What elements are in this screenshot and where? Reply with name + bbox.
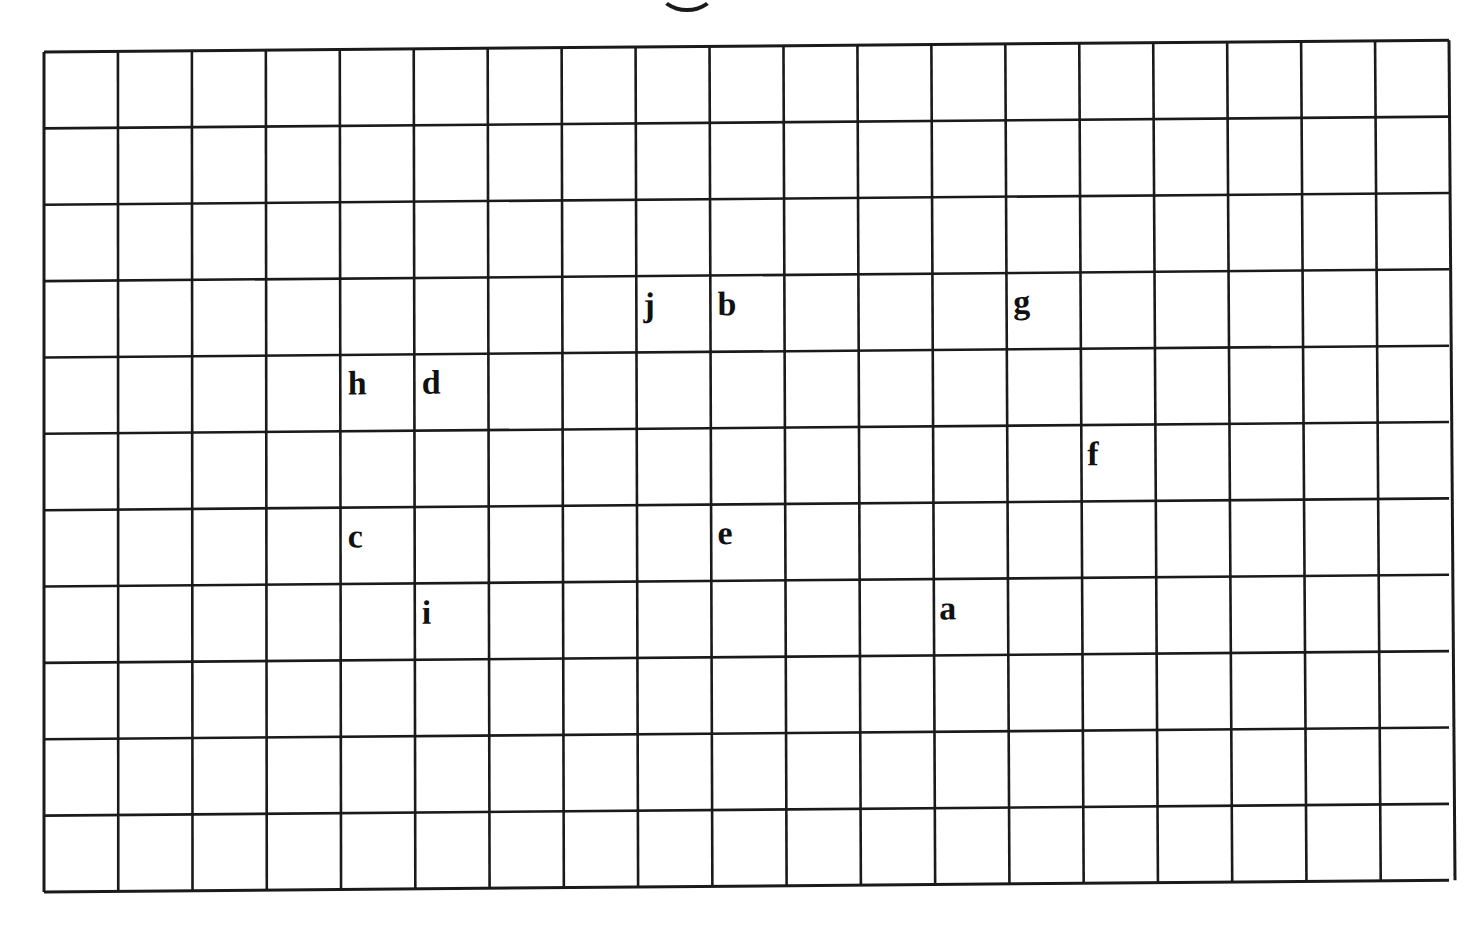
label-d: d bbox=[422, 366, 441, 400]
grid-vertical-line bbox=[1079, 43, 1083, 883]
label-f: f bbox=[1087, 437, 1098, 471]
label-b: b bbox=[718, 287, 737, 321]
grid-horizontal-line bbox=[44, 346, 1449, 358]
grid-vertical-line bbox=[783, 46, 786, 886]
label-c: c bbox=[348, 520, 363, 554]
label-j: j bbox=[644, 288, 655, 322]
grid-vertical-line bbox=[414, 49, 416, 889]
label-i: i bbox=[422, 595, 431, 629]
grid-horizontal-line bbox=[44, 40, 1449, 52]
grid-horizontal-line bbox=[44, 651, 1449, 663]
grid-horizontal-line bbox=[44, 575, 1449, 587]
grid-horizontal-line bbox=[44, 498, 1449, 510]
grid-vertical-line bbox=[1227, 42, 1232, 882]
grid-lines bbox=[44, 40, 1449, 892]
grid-vertical-line bbox=[1005, 44, 1009, 884]
grid-vertical-line bbox=[636, 47, 639, 887]
grid-vertical-line bbox=[1301, 41, 1306, 881]
grid-vertical-line bbox=[488, 48, 490, 888]
grid-vertical-line bbox=[1153, 43, 1158, 883]
grid-horizontal-line bbox=[44, 117, 1449, 129]
diagram-stage: j b g h d f c e i a bbox=[0, 0, 1473, 933]
letter-grid: j b g h d f c e i a bbox=[44, 40, 1449, 892]
partial-glyph-arc bbox=[658, 0, 716, 12]
grid-vertical-line bbox=[710, 46, 713, 886]
grid-horizontal-line bbox=[44, 269, 1449, 281]
grid-vertical-line bbox=[857, 45, 860, 885]
grid-horizontal-line bbox=[44, 804, 1449, 816]
label-h: h bbox=[348, 367, 367, 401]
label-g: g bbox=[1013, 285, 1030, 319]
grid-horizontal-line bbox=[44, 422, 1449, 434]
grid-vertical-line bbox=[1375, 41, 1381, 881]
grid-vertical-line bbox=[266, 50, 267, 890]
grid-horizontal-line bbox=[44, 728, 1449, 740]
label-a: a bbox=[939, 591, 956, 625]
grid-vertical-line bbox=[931, 45, 935, 885]
label-e: e bbox=[718, 516, 733, 550]
grid-vertical-line bbox=[1449, 40, 1455, 880]
grid-horizontal-line bbox=[44, 193, 1449, 205]
grid-vertical-line bbox=[562, 48, 564, 888]
grid-vertical-line bbox=[192, 51, 193, 891]
grid-vertical-line bbox=[340, 50, 341, 890]
grid-horizontal-line bbox=[44, 880, 1449, 892]
